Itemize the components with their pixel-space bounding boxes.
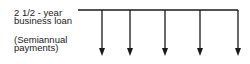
payment-arrow-icon — [235, 10, 241, 56]
payment-arrow-icon — [197, 10, 203, 56]
payment-arrow-icon — [127, 10, 133, 56]
cash-flow-diagram — [0, 0, 250, 64]
payment-arrow-icon — [162, 10, 168, 56]
payment-arrow-icon — [99, 10, 105, 56]
